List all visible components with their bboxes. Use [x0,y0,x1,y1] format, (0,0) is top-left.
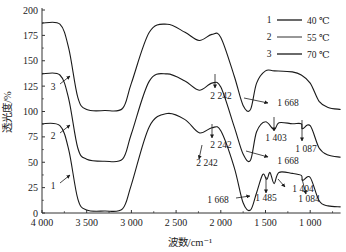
y-tick-label: 125 [23,81,38,92]
peak-arrow [278,179,285,187]
curve-number-label: 2 [51,131,56,141]
axes: 02550751001251501752004 0003 5003 0002 5… [23,5,341,229]
y-tick-label: 50 [28,157,38,168]
peak-label: 1 485 [255,193,277,203]
y-tick-label: 150 [23,55,38,66]
legend-number: 2 [267,32,272,42]
x-tick-label: 1 500 [254,217,277,228]
legend: 140 ℃255 ℃370 ℃ [267,15,330,60]
peak-label: 1 404 [292,184,314,194]
chart-svg: 02550751001251501752004 0003 5003 0002 5… [0,0,346,252]
x-tick-label: 2 000 [210,217,233,228]
legend-label: 40 ℃ [307,16,330,26]
x-tick-label: 3 000 [120,217,143,228]
y-tick-label: 25 [28,182,38,193]
peak-label: 2 242 [210,91,232,101]
legend-number: 1 [267,15,272,25]
curve-number-label: 3 [51,82,56,92]
peak-label: 2 242 [210,140,232,150]
ftir-chart: 02550751001251501752004 0003 5003 0002 5… [0,0,346,252]
x-tick-label: 2 500 [165,217,188,228]
peak-arrow [199,145,202,159]
peak-label: 1 668 [207,195,229,205]
peak-label: 1 403 [265,133,287,143]
peak-arrow [244,98,268,103]
peak-annotations: 1232 2421 6682 2421 6681 4031 0872 2421 … [51,74,320,205]
x-axis-label: 波数/cm⁻¹ [168,236,212,248]
y-tick-label: 100 [23,106,38,117]
peak-label: 1 087 [295,144,317,154]
peak-label: 1 668 [277,98,299,108]
peak-label: 1 668 [277,156,299,166]
x-tick-label: 1 000 [299,217,322,228]
y-tick-label: 175 [23,30,38,41]
curve-label-arrow [60,125,70,133]
legend-label: 55 ℃ [307,33,330,43]
peak-label: 2 242 [196,158,218,168]
y-tick-label: 75 [28,131,38,142]
curve-number-label: 1 [51,181,56,191]
peak-arrow [236,196,250,198]
y-tick-label: 200 [23,5,38,16]
x-tick-label: 3 500 [75,217,98,228]
legend-label: 70 ℃ [307,50,330,60]
legend-number: 3 [267,49,272,59]
peak-label: 1 084 [298,194,320,204]
y-axis-label: 透光度/% [1,91,13,133]
peak-arrow [246,151,268,157]
curve-label-arrow [60,175,70,183]
x-tick-label: 4 000 [31,217,54,228]
